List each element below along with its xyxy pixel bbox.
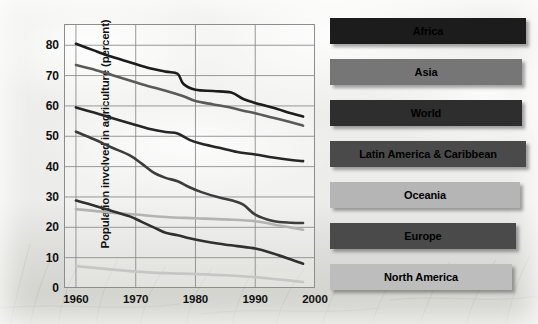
y-tick-70: 70: [46, 69, 59, 83]
legend-label: World: [411, 107, 441, 119]
x-tick-1960: 1960: [63, 293, 89, 305]
y-tick-0: 0: [52, 281, 59, 295]
series-line-north-america: [76, 266, 303, 282]
x-tick-2000: 2000: [302, 293, 328, 305]
legend-label: Africa: [413, 25, 444, 37]
x-tick-1990: 1990: [242, 293, 268, 305]
series-lines: [76, 44, 303, 282]
legend-item-africa[interactable]: Africa: [330, 18, 526, 44]
legend-label: Latin America & Caribbean: [359, 148, 497, 160]
legend-item-europe[interactable]: Europe: [330, 223, 516, 249]
chart-figure: Population involved in agriculture (perc…: [0, 0, 538, 324]
plot-area: Population involved in agriculture (perc…: [64, 24, 315, 288]
legend-item-north-america[interactable]: North America: [330, 264, 512, 290]
legend-item-latin-america-caribbean[interactable]: Latin America & Caribbean: [330, 141, 526, 167]
y-tick-30: 30: [46, 190, 59, 204]
chart-legend: AfricaAsiaWorldLatin America & Caribbean…: [330, 18, 526, 306]
gridlines: [64, 24, 315, 288]
legend-label: Europe: [404, 230, 441, 242]
y-tick-20: 20: [46, 220, 59, 234]
y-tick-10: 10: [46, 251, 59, 265]
legend-label: Asia: [415, 66, 438, 78]
legend-label: Oceania: [404, 189, 446, 201]
x-tick-1980: 1980: [183, 293, 209, 305]
y-tick-80: 80: [46, 38, 59, 52]
series-line-europe: [76, 201, 303, 264]
legend-label: North America: [384, 271, 458, 283]
legend-item-oceania[interactable]: Oceania: [330, 182, 520, 208]
legend-item-world[interactable]: World: [330, 100, 522, 126]
x-tick-1970: 1970: [123, 293, 149, 305]
plot-svg: [64, 24, 315, 288]
legend-item-asia[interactable]: Asia: [330, 59, 522, 85]
y-tick-60: 60: [46, 99, 59, 113]
y-tick-50: 50: [46, 129, 59, 143]
y-tick-40: 40: [46, 160, 59, 174]
